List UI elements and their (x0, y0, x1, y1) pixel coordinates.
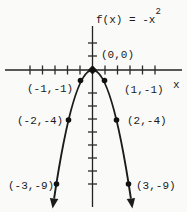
point-label-pos2: (2,-4) (127, 115, 167, 127)
arrowhead-left-icon (50, 198, 58, 209)
vertex-point (88, 65, 97, 74)
point-label-origin: (0,0) (101, 49, 134, 61)
point-neg3 (54, 181, 60, 187)
point-pos3 (126, 181, 132, 187)
point-pos2 (114, 117, 120, 123)
point-label-pos1: (1,-1) (124, 84, 164, 96)
point-neg1 (78, 78, 84, 84)
arrowhead-right-icon (127, 198, 135, 209)
function-title: f(x) = -x (96, 14, 156, 26)
point-label-neg2: (-2,-4) (17, 115, 63, 127)
point-label-neg3: (-3,-9) (8, 180, 54, 192)
function-graph-svg: f(x) = -x 2 x (0,0) (-1,-1) (1,-1) (-2,-… (0, 0, 187, 212)
function-title-exponent: 2 (156, 7, 161, 17)
parabola-figure: f(x) = -x 2 x (0,0) (-1,-1) (1,-1) (-2,-… (0, 0, 187, 212)
point-neg2 (66, 117, 72, 123)
x-axis-label: x (173, 79, 180, 91)
point-label-neg1: (-1,-1) (27, 83, 73, 95)
point-label-pos3: (3,-9) (136, 180, 176, 192)
point-pos1 (102, 78, 108, 84)
